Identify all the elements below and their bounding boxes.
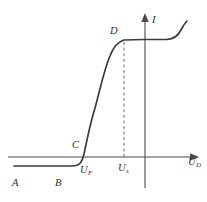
x-axis-label-base: U [188,156,196,167]
threshold-voltage-subscript: F [88,169,92,177]
y-axis-arrow-icon [141,13,148,22]
point-label-a: A [12,178,18,189]
x-axis-label: UD [188,157,201,168]
point-label-d: D [110,26,118,37]
saturation-voltage-label: Us [118,163,128,174]
threshold-voltage-label: UF [80,165,92,176]
saturation-voltage-subscript: s [126,167,129,175]
iv-characteristic-figure: A B C D UF Us I UD [0,0,207,202]
saturation-voltage-base: U [118,162,126,173]
iv-curve [14,21,187,166]
point-label-c: C [72,140,79,151]
threshold-voltage-base: U [80,164,88,175]
y-axis-label: I [152,15,156,26]
point-label-b: B [55,178,61,189]
x-axis-label-subscript: D [196,161,201,169]
figure-canvas [0,0,207,202]
